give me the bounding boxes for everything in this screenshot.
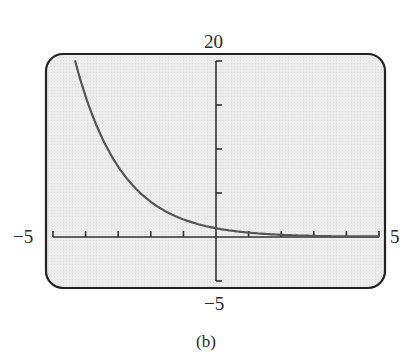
graphing-calculator-figure: 20 −5 −5 5 (b) xyxy=(0,0,418,359)
y-min-label: −5 xyxy=(204,294,224,313)
x-min-label: −5 xyxy=(13,227,33,246)
y-max-label: 20 xyxy=(204,32,223,51)
x-max-label: 5 xyxy=(390,227,400,246)
figure-caption: (b) xyxy=(196,333,216,350)
